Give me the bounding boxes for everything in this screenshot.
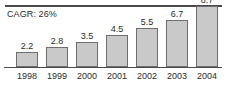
bar-chart: CAGR: 26% 2.2 2.8 3.5 4.5 5.5 6.7 8.7 <box>0 0 227 89</box>
bar-slot-1999: 2.8 <box>42 0 72 67</box>
bar-value-label-2001: 4.5 <box>102 24 132 34</box>
bar-1998[interactable] <box>16 52 38 67</box>
bar-2001[interactable] <box>106 35 128 67</box>
bar-2004[interactable] <box>196 6 218 67</box>
bar-slot-1998: 2.2 <box>12 0 42 67</box>
x-tick-2004: 2004 <box>192 71 222 81</box>
bar-slot-2001: 4.5 <box>102 0 132 67</box>
bar-value-label-1999: 2.8 <box>42 36 72 46</box>
x-tick-2001: 2001 <box>102 71 132 81</box>
x-tick-2002: 2002 <box>132 71 162 81</box>
bar-2000[interactable] <box>76 42 98 67</box>
bar-2003[interactable] <box>166 20 188 67</box>
x-tick-2000: 2000 <box>72 71 102 81</box>
bar-slot-2004: 8.7 <box>192 0 222 67</box>
bar-2002[interactable] <box>136 28 158 67</box>
x-axis-baseline <box>4 67 222 68</box>
bar-slot-2003: 6.7 <box>162 0 192 67</box>
x-tick-1999: 1999 <box>42 71 72 81</box>
x-tick-2003: 2003 <box>162 71 192 81</box>
bar-value-label-2002: 5.5 <box>132 17 162 27</box>
bar-value-label-2003: 6.7 <box>162 9 192 19</box>
bar-slot-2000: 3.5 <box>72 0 102 67</box>
x-axis-tick-labels: 1998 1999 2000 2001 2002 2003 2004 <box>0 71 227 85</box>
x-tick-1998: 1998 <box>12 71 42 81</box>
bar-value-label-2000: 3.5 <box>72 31 102 41</box>
bar-value-label-2004: 8.7 <box>192 0 222 5</box>
bar-1999[interactable] <box>46 47 68 67</box>
bar-slot-2002: 5.5 <box>132 0 162 67</box>
bar-value-label-1998: 2.2 <box>12 41 42 51</box>
plot-area: 2.2 2.8 3.5 4.5 5.5 6.7 8.7 <box>0 0 227 67</box>
